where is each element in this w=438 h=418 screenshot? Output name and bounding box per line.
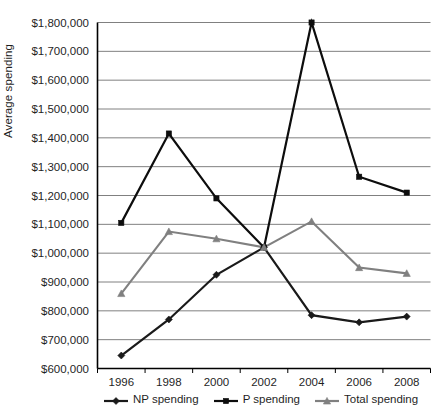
x-axis-tick-label: 2004 xyxy=(299,376,325,388)
diamond-marker xyxy=(113,398,120,405)
x-axis-tick-label: 1996 xyxy=(108,376,134,388)
legend-entry: NP spending xyxy=(103,393,199,405)
x-axis-tick-labels: 1996199820002002200420062008 xyxy=(0,0,438,418)
legend-label: P spending xyxy=(243,393,300,405)
x-axis-tick-label: 1998 xyxy=(156,376,182,388)
x-axis-tick-label: 2000 xyxy=(204,376,230,388)
x-axis-tick-label: 2002 xyxy=(251,376,277,388)
square-marker xyxy=(223,398,228,403)
x-axis-tick-label: 2006 xyxy=(346,376,372,388)
square-marker xyxy=(213,393,239,405)
legend-entry: P spending xyxy=(213,393,300,405)
legend-label: NP spending xyxy=(133,393,199,405)
line-chart-figure: Average spending $1,800,000$1,700,000$1,… xyxy=(0,0,438,418)
legend-entry: Total spending xyxy=(314,393,418,405)
x-axis-tick-label: 2008 xyxy=(394,376,420,388)
chart-legend: NP spendingP spendingTotal spending xyxy=(103,389,418,409)
legend-label: Total spending xyxy=(344,393,418,405)
triangle-marker xyxy=(314,393,340,405)
diamond-marker xyxy=(103,393,129,405)
